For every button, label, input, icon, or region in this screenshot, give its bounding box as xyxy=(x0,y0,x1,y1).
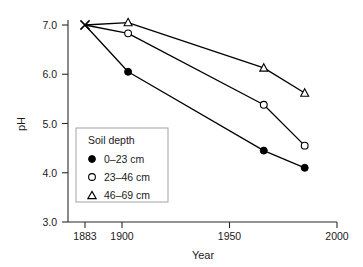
datapoint-46-69-cm-1985 xyxy=(301,89,309,96)
x-axis-title: Year xyxy=(192,249,215,261)
datapoint-0-23-cm-1903 xyxy=(125,68,132,75)
x-tick-labels: 1883 1900 1950 2000 xyxy=(73,230,349,242)
datapoint-23-46-cm-1903 xyxy=(125,30,132,37)
y-tick-label-6: 6.0 xyxy=(42,68,57,80)
datapoint-23-46-cm-1966 xyxy=(260,101,267,108)
legend-marker-open-circle-icon xyxy=(89,174,96,181)
y-tick-labels: 7.0 6.0 5.0 4.0 3.0 xyxy=(42,19,57,228)
chart-figure: 7.0 6.0 5.0 4.0 3.0 1883 1900 1950 2000 … xyxy=(0,0,363,267)
ph-vs-year-line-chart: 7.0 6.0 5.0 4.0 3.0 1883 1900 1950 2000 … xyxy=(0,0,363,267)
legend-label-0-23cm: 0–23 cm xyxy=(104,153,145,165)
x-tick-label-1950: 1950 xyxy=(218,230,242,242)
datapoint-0-23-cm-1985 xyxy=(301,164,308,171)
y-axis-title: pH xyxy=(15,117,27,131)
x-tick-label-1900: 1900 xyxy=(110,230,134,242)
legend-label-23-46cm: 23–46 cm xyxy=(104,171,150,183)
series-line-46-69cm xyxy=(85,23,305,93)
y-tick-label-5: 5.0 xyxy=(42,118,57,130)
legend: Soil depth 0–23 cm 23–46 cm 46–69 cm xyxy=(76,128,168,202)
y-tick-label-3: 3.0 xyxy=(42,216,57,228)
legend-title: Soil depth xyxy=(88,134,135,146)
legend-marker-filled-circle-icon xyxy=(89,156,96,163)
x-tick-label-1883: 1883 xyxy=(73,230,97,242)
datapoint-23-46-cm-1985 xyxy=(301,142,308,149)
y-tick-label-4: 4.0 xyxy=(42,167,57,179)
legend-label-46-69cm: 46–69 cm xyxy=(104,189,150,201)
y-tick-label-7: 7.0 xyxy=(42,19,57,31)
datapoint-0-23-cm-1966 xyxy=(260,147,267,154)
x-tick-label-2000: 2000 xyxy=(325,230,349,242)
